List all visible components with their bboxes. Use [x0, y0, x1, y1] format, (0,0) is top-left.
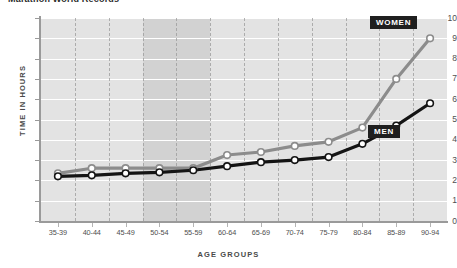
x-axis-tick: [261, 223, 262, 227]
y-axis-title: TIME IN HOURS: [18, 41, 27, 161]
y-axis-tick: [35, 140, 40, 141]
y-axis-tick: [35, 79, 40, 80]
data-point-men: [88, 172, 95, 179]
x-axis-title: AGE GROUPS: [0, 250, 457, 259]
x-axis-tick-label: 40-44: [75, 228, 109, 237]
x-axis-tick-label: 80-84: [346, 228, 380, 237]
y-axis-tick: [35, 38, 40, 39]
data-point-men: [291, 157, 298, 164]
data-point-men: [190, 167, 197, 174]
x-axis-tick-label: 90-94: [413, 228, 447, 237]
x-axis-tick-label: 75-79: [312, 228, 346, 237]
y-axis-tick: [35, 59, 40, 60]
x-axis-tick-label: 35-39: [41, 228, 75, 237]
data-point-women: [224, 152, 231, 159]
x-axis-tick: [396, 223, 397, 227]
chart-title: Marathon World Records: [8, 0, 119, 4]
x-axis-tick-label: 45-49: [109, 228, 143, 237]
data-point-men: [258, 159, 265, 166]
x-axis-tick: [58, 223, 59, 227]
data-point-women: [291, 143, 298, 150]
x-axis-tick: [193, 223, 194, 227]
x-axis-tick: [126, 223, 127, 227]
data-point-men: [122, 170, 129, 177]
data-point-women: [258, 149, 265, 156]
y-axis-tick: [35, 99, 40, 100]
x-axis-tick: [159, 223, 160, 227]
legend-label-women: WOMEN: [370, 16, 417, 29]
x-axis-tick-label: 85-89: [379, 228, 413, 237]
data-point-women: [393, 76, 400, 83]
data-point-men: [325, 154, 332, 161]
data-point-women: [88, 165, 95, 172]
data-point-men: [55, 173, 62, 180]
chart-container: Marathon World Records TIME IN HOURS 012…: [0, 0, 457, 268]
data-point-men: [156, 169, 163, 176]
data-point-men: [224, 163, 231, 170]
series-line-men: [58, 103, 430, 176]
x-axis-tick-label: 60-64: [210, 228, 244, 237]
x-axis-tick: [92, 223, 93, 227]
x-axis-tick: [227, 223, 228, 227]
y-axis-tick: [35, 180, 40, 181]
x-axis-tick: [329, 223, 330, 227]
data-point-women: [359, 124, 366, 131]
x-axis-tick-label: 50-54: [143, 228, 177, 237]
x-axis-tick: [362, 223, 363, 227]
series-lines: [41, 18, 447, 221]
x-axis-line: [39, 221, 448, 223]
y-axis-tick: [35, 160, 40, 161]
y-axis-tick: [35, 201, 40, 202]
x-axis-tick-label: 70-74: [278, 228, 312, 237]
y-axis-tick: [35, 221, 40, 222]
x-axis-tick-label: 55-59: [176, 228, 210, 237]
data-point-men: [427, 100, 434, 107]
y-axis-tick: [35, 120, 40, 121]
y-axis-tick: [35, 18, 40, 19]
x-axis-tick-label: 65-69: [244, 228, 278, 237]
x-axis-tick: [295, 223, 296, 227]
series-line-women: [58, 38, 430, 173]
data-point-women: [427, 35, 434, 42]
data-point-men: [359, 141, 366, 148]
legend-label-men: MEN: [368, 125, 400, 138]
data-point-women: [325, 139, 332, 146]
